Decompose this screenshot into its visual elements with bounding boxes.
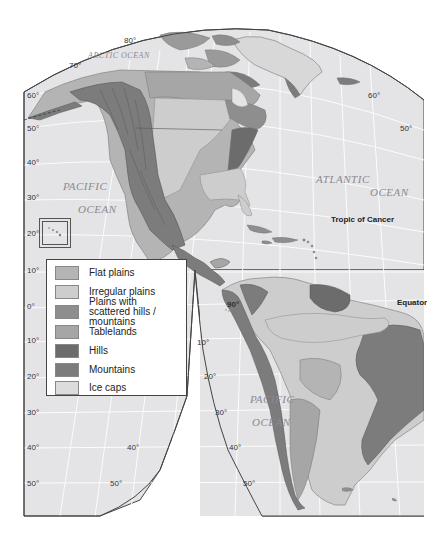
lat-label: 40° bbox=[27, 443, 39, 452]
legend-item-hills: Hills bbox=[55, 342, 186, 361]
map-legend: Flat plains Irregular plains Plains with… bbox=[46, 259, 187, 396]
legend-item-ice-caps: Ice caps bbox=[55, 379, 186, 398]
lat-label-s40-inner: 40° bbox=[127, 443, 139, 452]
lat-label: 50° bbox=[27, 479, 39, 488]
lat-label: 20° bbox=[27, 372, 39, 381]
lat-label: 0° bbox=[27, 302, 35, 311]
swatch-ice-caps bbox=[55, 381, 79, 395]
swatch-flat-plains bbox=[55, 266, 79, 280]
swatch-irregular-plains bbox=[55, 285, 79, 299]
hawaii-inset-box bbox=[39, 218, 71, 248]
tropic-of-cancer-label: Tropic of Cancer bbox=[331, 215, 394, 224]
lat-label-s10: 10° bbox=[197, 338, 209, 347]
lat-label: 10° bbox=[27, 266, 39, 275]
lat-label: 60° bbox=[27, 91, 39, 100]
lat-label-s30: 30° bbox=[215, 408, 227, 417]
ocean-label-pacific-south-2: OCEAN bbox=[252, 416, 291, 428]
lat-label: 50° bbox=[27, 124, 39, 133]
lat-label: 40° bbox=[27, 158, 39, 167]
lat-label-50-right: 50° bbox=[400, 124, 412, 133]
meridian-label-90: 90° bbox=[227, 300, 239, 309]
lat-label: 30° bbox=[27, 193, 39, 202]
lat-label-s50-inner: 50° bbox=[110, 479, 122, 488]
lat-label-s40: 40° bbox=[229, 443, 241, 452]
lat-label-s50: 50° bbox=[243, 479, 255, 488]
legend-label: Mountains bbox=[89, 365, 135, 375]
swatch-plains-scattered bbox=[55, 305, 79, 319]
ocean-label-pacific-south: PACIFIC bbox=[250, 393, 294, 405]
lat-label-s20: 20° bbox=[204, 372, 216, 381]
ocean-label-pacific-north: PACIFIC bbox=[63, 180, 107, 192]
swatch-hills bbox=[55, 344, 79, 358]
legend-label: Flat plains bbox=[89, 268, 135, 278]
lat-label: 20° bbox=[27, 229, 39, 238]
legend-label: Ice caps bbox=[89, 383, 126, 393]
lat-label-80: 80° bbox=[124, 36, 136, 45]
swatch-tablelands bbox=[55, 325, 79, 339]
lat-label: 10° bbox=[27, 336, 39, 345]
lat-label-70: 70° bbox=[69, 61, 81, 70]
legend-item-plains-scattered: Plains with scattered hills / mountains bbox=[55, 301, 186, 323]
lat-label-60-right: 60° bbox=[368, 91, 380, 100]
legend-label: Plains with scattered hills / mountains bbox=[89, 297, 179, 327]
ocean-label-pacific-north-2: OCEAN bbox=[78, 203, 117, 215]
legend-item-flat-plains: Flat plains bbox=[55, 264, 186, 283]
ocean-label-atlantic: ATLANTIC bbox=[316, 173, 370, 185]
ocean-label-atlantic-2: OCEAN bbox=[370, 186, 409, 198]
legend-label: Hills bbox=[89, 346, 108, 356]
ocean-label-arctic: ARCTIC OCEAN bbox=[88, 51, 150, 60]
legend-item-mountains: Mountains bbox=[55, 360, 186, 379]
lat-label: 30° bbox=[27, 408, 39, 417]
swatch-mountains bbox=[55, 363, 79, 377]
legend-label: Tablelands bbox=[89, 327, 137, 337]
equator-label: Equator bbox=[397, 298, 427, 307]
